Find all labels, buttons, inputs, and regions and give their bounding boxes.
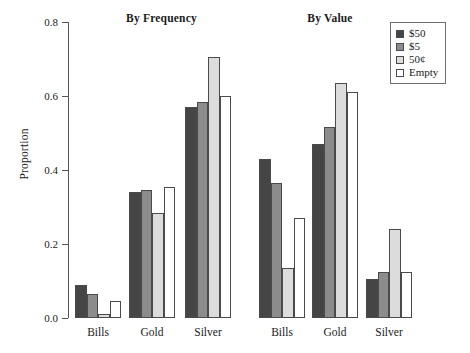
- y-axis-tick-label: 0.8: [30, 17, 58, 28]
- legend-swatch-icon: [396, 56, 404, 64]
- bar: [259, 159, 271, 318]
- legend-swatch-icon: [396, 43, 404, 51]
- legend-item: Empty: [396, 66, 438, 79]
- bar: [312, 144, 324, 318]
- y-axis-tick-label: 0.2: [30, 239, 58, 250]
- y-axis-tick-label: 0.4: [30, 165, 58, 176]
- bar: [110, 301, 122, 318]
- bar: [389, 229, 401, 318]
- bar: [152, 213, 164, 318]
- bar: [185, 107, 197, 318]
- bar: [347, 92, 359, 318]
- y-axis-tick-label: 0.6: [30, 91, 58, 102]
- bar: [164, 187, 176, 318]
- legend-label: $50: [409, 28, 426, 39]
- bar: [324, 127, 336, 318]
- panel-by-value: By Value BillsGoldSilver: [254, 22, 406, 318]
- bar: [378, 272, 390, 318]
- y-axis-tick-mark: [62, 96, 68, 97]
- y-axis-tick-mark: [62, 170, 68, 171]
- legend-label: 50¢: [409, 54, 426, 65]
- legend-swatch-icon: [396, 69, 404, 77]
- legend-label: $5: [409, 41, 420, 52]
- bar: [366, 279, 378, 318]
- x-axis-tick-label: Bills: [259, 326, 305, 338]
- y-axis-tick-mark: [62, 318, 68, 319]
- bar: [294, 218, 306, 318]
- bar: [129, 192, 141, 318]
- bar-group: Gold: [129, 22, 175, 318]
- bar-group: Bills: [259, 22, 305, 318]
- panel-by-frequency: By Frequency BillsGoldSilver: [69, 22, 254, 318]
- x-axis-tick-label: Gold: [129, 326, 175, 338]
- bar: [75, 285, 87, 318]
- x-axis-tick-label: Gold: [312, 326, 358, 338]
- bar: [220, 96, 232, 318]
- bar-group: Gold: [312, 22, 358, 318]
- y-axis-tick-mark: [62, 22, 68, 23]
- bar: [197, 102, 209, 318]
- legend-item: 50¢: [396, 53, 438, 66]
- chart-figure: 0.00.20.40.60.8 Proportion By Frequency …: [0, 0, 470, 353]
- bar: [271, 183, 283, 318]
- legend-item: $5: [396, 40, 438, 53]
- bar: [335, 83, 347, 318]
- legend-item: $50: [396, 27, 438, 40]
- y-axis-tick-mark: [62, 244, 68, 245]
- legend-label: Empty: [409, 67, 438, 78]
- legend-swatch-icon: [396, 30, 404, 38]
- x-axis-tick-label: Silver: [366, 326, 412, 338]
- legend: $50$550¢Empty: [390, 22, 446, 84]
- bar: [141, 190, 153, 318]
- y-axis-label: Proportion: [18, 94, 30, 214]
- bar: [87, 294, 99, 318]
- bar: [98, 314, 110, 318]
- bar-group: Silver: [185, 22, 231, 318]
- bar-group: Bills: [75, 22, 121, 318]
- x-axis-tick-label: Bills: [75, 326, 121, 338]
- bar: [401, 272, 413, 318]
- y-axis-tick-label: 0.0: [30, 313, 58, 324]
- bar: [208, 57, 220, 318]
- bar: [282, 268, 294, 318]
- x-axis-tick-label: Silver: [185, 326, 231, 338]
